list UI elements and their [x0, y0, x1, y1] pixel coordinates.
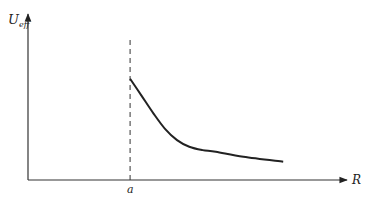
potential-diagram: Ueff R a	[0, 0, 371, 199]
x-axis-label: R	[351, 173, 361, 187]
y-axis-label-subscript: eff	[19, 20, 31, 29]
y-axis-label: Ueff	[8, 12, 31, 29]
potential-curve	[130, 79, 283, 162]
series-layer	[130, 79, 283, 162]
marker-label-a: a	[127, 183, 134, 196]
